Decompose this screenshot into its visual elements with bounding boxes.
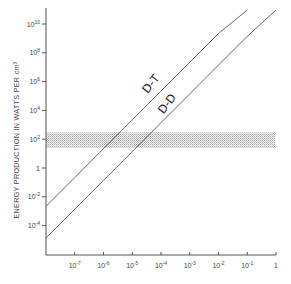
curves [46, 10, 276, 238]
shaded-band [46, 132, 275, 148]
x-tick-label: 10-3 [184, 260, 196, 269]
x-tick-label: 10-1 [241, 260, 253, 269]
y-tick-label: 1010 [27, 19, 41, 28]
x-tick-label: 10-2 [212, 260, 224, 269]
y-tick-label: 108 [29, 47, 40, 56]
x-tick-label: 10-5 [126, 260, 138, 269]
y-tick-label: 104 [29, 105, 40, 114]
y-tick-label: 10-2 [28, 191, 40, 200]
x-tick-label: 1 [274, 262, 278, 269]
x-tick-label: 10-6 [97, 260, 109, 269]
curve-d-d [46, 10, 276, 238]
y-axis-label: ENERGY PRODUCTION IN WATTS PER cm³ [12, 61, 21, 218]
curve-d-t [46, 10, 247, 206]
y-tick-label: 10-4 [28, 220, 40, 229]
y-tick-label: 102 [29, 134, 40, 143]
y-ticks: 1010108106104102110-210-4 [27, 19, 46, 230]
chart: 1010108106104102110-210-4 10-710-610-510… [0, 0, 291, 284]
curve-label-d-t: D-T [139, 71, 163, 96]
x-tick-label: 10-4 [155, 260, 167, 269]
x-tick-label: 10-7 [69, 260, 81, 269]
curve-label-d-d: D-D [155, 91, 179, 117]
y-tick-label: 1 [36, 165, 40, 172]
y-tick-label: 106 [29, 76, 40, 85]
